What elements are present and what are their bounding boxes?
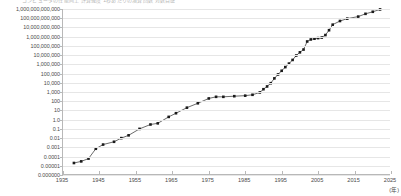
y-gridline [63,175,390,176]
y-axis-tick-label: 0.01 [50,135,60,141]
y-axis-tick [60,120,63,121]
data-point [215,96,218,99]
x-axis-tick-label: 1985 [238,177,250,183]
data-point [371,10,374,13]
x-axis-tick [318,171,319,174]
x-axis-tick-label: 1945 [92,177,104,183]
plot-area [62,9,390,175]
y-gridline [63,37,390,38]
y-axis-tick [60,55,63,56]
y-gridline [63,64,390,65]
x-axis-tick [391,171,392,174]
y-gridline [63,101,390,102]
y-gridline [63,18,390,19]
y-axis-tick-label: 0.1 [53,126,60,132]
y-gridline [63,83,390,84]
y-axis-tick-label: 10,000,000 [34,52,60,58]
data-point [167,116,170,119]
y-gridline [63,120,390,121]
data-point [207,97,210,100]
y-gridline [63,147,390,148]
x-axis-tick [99,171,100,174]
data-point [149,123,152,126]
x-axis-tick [355,171,356,174]
y-axis-tick [60,147,63,148]
data-point [102,143,105,146]
x-axis-tick-label: 1955 [129,177,141,183]
data-point [328,29,331,32]
y-axis-tick-label: 1.0 [53,117,60,123]
x-axis-labels: 1935194519551965197519851995200520152025 [62,177,390,187]
y-axis-tick-label: 100,000,000,000 [20,15,60,21]
x-axis-tick-label: 1935 [56,177,68,183]
x-axis-tick [245,171,246,174]
data-point [186,106,189,109]
y-axis-tick-label: 10,000 [44,80,60,86]
y-axis-tick [60,27,63,28]
y-axis-tick [60,129,63,130]
x-axis-tick-label: 2005 [311,177,323,183]
y-axis-tick [60,92,63,93]
y-axis-tick [60,101,63,102]
x-axis-tick [209,171,210,174]
y-axis-tick [60,157,63,158]
data-point [156,122,159,125]
y-gridline [63,46,390,47]
y-gridline [63,166,390,167]
y-gridline [63,138,390,139]
data-point [244,94,247,97]
x-axis-tick-label: 1965 [165,177,177,183]
data-point [262,88,265,91]
y-axis-tick-label: 0.0001 [44,154,60,160]
data-point [284,66,287,69]
y-axis-tick-label: 1,000,000 [36,61,60,67]
x-axis-tick-label: 2025 [384,177,396,183]
series-line [74,9,380,163]
chart-container: コンピュータの性能向上 計算速度 1秒あたりの演算回数 対数目盛 1,000,0… [0,0,401,196]
x-axis-tick [63,171,64,174]
data-point [302,48,305,51]
y-axis-tick [60,138,63,139]
y-gridline [63,157,390,158]
y-axis-tick-label: 1,000,000,000,000 [16,6,60,12]
x-axis-tick [282,171,283,174]
data-point [175,112,178,115]
chart-title-cropped: コンピュータの性能向上 計算速度 1秒あたりの演算回数 対数目盛 [0,0,401,7]
data-point [273,77,276,80]
data-point [233,95,236,98]
y-axis-tick [60,37,63,38]
y-axis-tick [60,166,63,167]
y-axis-tick [60,64,63,65]
data-point [222,96,225,99]
y-axis-tick-label: 100 [51,98,60,104]
y-gridline [63,129,390,130]
y-axis-tick-label: 1,000,000,000 [26,34,60,40]
y-axis-tick [60,18,63,19]
data-point [73,162,76,165]
x-axis-tick-label: 2015 [347,177,359,183]
y-axis-tick [60,74,63,75]
y-axis-tick [60,9,63,10]
y-axis-tick-label: 0.001 [47,144,60,150]
x-axis-tick [172,171,173,174]
x-axis-tick-label: 1995 [274,177,286,183]
data-point [80,160,83,163]
y-axis-tick-label: 100,000 [41,71,60,77]
y-gridline [63,92,390,93]
data-point [299,51,302,54]
x-axis-unit-label: (年) [389,186,399,194]
y-axis-tick [60,46,63,47]
y-gridline [63,110,390,111]
y-gridline [63,74,390,75]
x-axis-tick [136,171,137,174]
data-point [266,85,269,88]
x-axis-tick-label: 1975 [202,177,214,183]
data-point [197,102,200,105]
y-axis-labels: 1,000,000,000,000100,000,000,00010,000,0… [0,9,60,175]
data-point [331,23,334,26]
y-axis-tick-label: 10,000,000,000 [23,24,60,30]
data-point [310,38,313,41]
data-point [313,37,316,40]
y-axis-tick-label: 1,000 [47,89,60,95]
chart-title-text: コンピュータの性能向上 計算速度 1秒あたりの演算回数 対数目盛 [0,0,401,4]
